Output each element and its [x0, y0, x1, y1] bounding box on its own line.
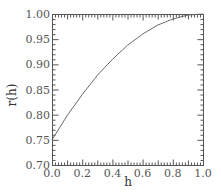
x-tick-label: 0.2: [73, 167, 91, 180]
axis-ticks: [53, 15, 204, 166]
x-tick-label: 1.0: [194, 167, 212, 180]
y-tick-labels: 0.700.750.800.850.900.951.00: [26, 8, 51, 172]
y-tick-label: 0.85: [26, 84, 51, 97]
data-line: [52, 14, 203, 140]
y-tick-label: 0.90: [26, 58, 51, 71]
y-axis-label: r(h): [5, 84, 19, 107]
y-tick-label: 0.80: [26, 109, 51, 122]
plot-frame: [53, 15, 204, 166]
line-chart: 0.00.20.40.60.81.0 0.700.750.800.850.900…: [0, 0, 221, 195]
x-tick-label: 0.4: [104, 167, 122, 180]
y-tick-label: 1.00: [26, 8, 51, 21]
y-tick-label: 0.95: [26, 33, 51, 46]
y-tick-label: 0.75: [26, 134, 51, 147]
x-tick-label: 0.8: [164, 167, 182, 180]
x-tick-label: 0.6: [134, 167, 152, 180]
x-axis-label: h: [124, 175, 132, 189]
y-tick-label: 0.70: [26, 159, 51, 172]
